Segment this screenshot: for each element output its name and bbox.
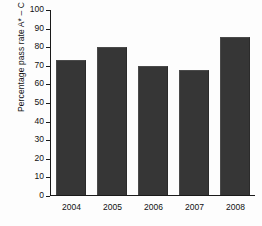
- x-axis-tick-label: 2004: [51, 202, 92, 212]
- y-axis-tick-mark: [46, 122, 50, 123]
- y-axis-tick-label: 20: [35, 153, 44, 163]
- y-axis-tick-label: 90: [35, 23, 44, 33]
- y-axis-tick-mark: [46, 66, 50, 67]
- y-axis-tick-mark: [46, 177, 50, 178]
- bar-2005: [97, 47, 127, 195]
- bar-slot: [133, 10, 174, 195]
- bar-chart-figure: Percentage pass rate A* – C 100908070605…: [0, 0, 262, 226]
- bar-2006: [138, 66, 168, 195]
- y-axis-tick-mark: [46, 159, 50, 160]
- bar-2004: [56, 60, 86, 195]
- bar-slot: [173, 10, 214, 195]
- y-axis-tick-label: 30: [35, 134, 44, 144]
- y-axis-tick-mark: [46, 10, 50, 11]
- x-axis-tick-label: 2005: [92, 202, 133, 212]
- bar-2008: [220, 37, 250, 195]
- plot-area: 1009080706050403020100: [50, 10, 255, 196]
- y-axis-tick-label: 50: [35, 97, 44, 107]
- x-axis-tick-label: 2008: [215, 202, 256, 212]
- bar-slot: [214, 10, 255, 195]
- y-axis-tick-mark: [46, 84, 50, 85]
- x-axis-tick-label: 2006: [133, 202, 174, 212]
- y-axis-tick-mark: [46, 29, 50, 30]
- y-axis-tick-mark: [46, 103, 50, 104]
- bar-slot: [92, 10, 133, 195]
- y-axis-tick-label: 60: [35, 78, 44, 88]
- y-axis-tick-label: 70: [35, 60, 44, 70]
- y-axis-tick-label: 10: [35, 171, 44, 181]
- bar-series: [51, 10, 255, 195]
- y-axis-tick-label: 40: [35, 116, 44, 126]
- x-axis-line: [50, 195, 255, 196]
- y-axis-tick-label: 0: [39, 190, 44, 200]
- bar-slot: [51, 10, 92, 195]
- y-axis-tick-mark: [46, 196, 50, 197]
- bar-2007: [179, 70, 209, 195]
- x-axis-tick-labels: 20042005200620072008: [51, 202, 256, 212]
- x-axis-tick-label: 2007: [174, 202, 215, 212]
- y-axis-title: Percentage pass rate A* – C: [16, 0, 30, 132]
- y-axis-tick-mark: [46, 140, 50, 141]
- y-axis-tick-label: 100: [30, 4, 44, 14]
- y-axis-tick-label: 80: [35, 41, 44, 51]
- y-axis-tick-mark: [46, 47, 50, 48]
